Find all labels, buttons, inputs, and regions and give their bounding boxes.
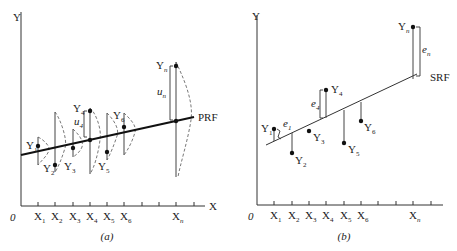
svg-text:Xn: Xn — [172, 210, 184, 225]
svg-text:Y5: Y5 — [348, 143, 360, 158]
origin-label: 0 — [248, 210, 254, 222]
panel-b: Y 0 X1 X2 X3 X4 X5 X6 Xn (b) SRF — [248, 10, 450, 243]
svg-text:X3: X3 — [69, 210, 81, 225]
panel-a: Y X 0 X1 X2 X3 X4 X5 X6 Xn (a) — [10, 11, 218, 243]
svg-text:X1: X1 — [34, 210, 46, 225]
svg-text:Y2: Y2 — [295, 154, 307, 169]
svg-text:en: en — [422, 43, 431, 58]
svg-text:X4: X4 — [322, 209, 334, 224]
y-axis-label: Y — [13, 11, 21, 23]
caption-b: (b) — [338, 230, 351, 243]
svg-text:u4: u4 — [74, 115, 84, 130]
svg-text:e4: e4 — [311, 97, 320, 112]
x-tick-labels: X1 X2 X3 X4 X5 X6 Xn — [270, 209, 421, 224]
svg-text:X6: X6 — [120, 210, 132, 225]
svg-text:un: un — [157, 85, 167, 100]
svg-text:e1: e1 — [283, 117, 291, 132]
caption-a: (a) — [101, 230, 114, 243]
svg-text:X5: X5 — [103, 210, 115, 225]
en-brace — [416, 27, 420, 76]
svg-text:Yn: Yn — [398, 20, 410, 35]
x-axis-label: X — [209, 200, 217, 212]
residual-lines — [274, 27, 413, 153]
svg-text:X6: X6 — [357, 209, 369, 224]
svg-text:X5: X5 — [340, 209, 352, 224]
svg-text:Y1: Y1 — [261, 122, 273, 137]
srf-label: SRF — [430, 71, 450, 83]
svg-text:Xn: Xn — [409, 209, 421, 224]
prf-label: PRF — [198, 111, 218, 123]
point-labels-a: Y1 Y2 Y3 Y4 Y5 Y6 Yn u4 un — [26, 59, 168, 177]
x-ticks — [274, 201, 431, 205]
origin-label: 0 — [10, 211, 16, 223]
svg-text:X4: X4 — [86, 210, 98, 225]
x-tick-labels: X1 X2 X3 X4 X5 X6 Xn — [34, 210, 184, 225]
svg-text:Y5: Y5 — [98, 160, 110, 175]
x-ticks — [38, 202, 194, 206]
svg-text:X3: X3 — [305, 209, 317, 224]
svg-text:X2: X2 — [288, 209, 300, 224]
svg-text:X1: X1 — [270, 209, 282, 224]
srf-line — [266, 74, 417, 145]
un-brace — [170, 66, 173, 120]
svg-text:Y4: Y4 — [331, 83, 343, 98]
point-labels-b: Y1 Y2 Y3 Y4 Y5 Y6 Yn e1 e4 en — [261, 20, 431, 169]
y-axis-label: Y — [252, 10, 260, 22]
regression-diagram: Y X 0 X1 X2 X3 X4 X5 X6 Xn (a) — [0, 0, 457, 251]
svg-text:Y3: Y3 — [64, 160, 76, 175]
svg-text:X2: X2 — [51, 210, 63, 225]
svg-text:Y6: Y6 — [364, 121, 376, 136]
svg-text:Y3: Y3 — [313, 131, 325, 146]
e4-brace — [320, 90, 323, 118]
svg-text:Yn: Yn — [156, 59, 168, 74]
svg-text:Y6: Y6 — [113, 109, 125, 124]
e1-brace — [277, 129, 281, 139]
